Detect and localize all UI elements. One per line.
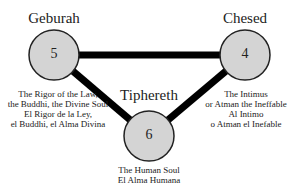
chesed-number: 4 <box>195 46 295 62</box>
tiphereth-description: The Human Soul El Alma Humana <box>79 165 219 185</box>
geburah-title: Geburah <box>4 10 104 27</box>
geburah-number: 5 <box>4 46 104 62</box>
chesed-description: The Intimus or Atman the Ineffable Al In… <box>176 89 301 129</box>
tiphereth-number: 6 <box>99 127 199 143</box>
geburah-description: The Rigor of the Law, the Buddhi, the Di… <box>0 89 128 129</box>
chesed-title: Chesed <box>195 10 295 27</box>
